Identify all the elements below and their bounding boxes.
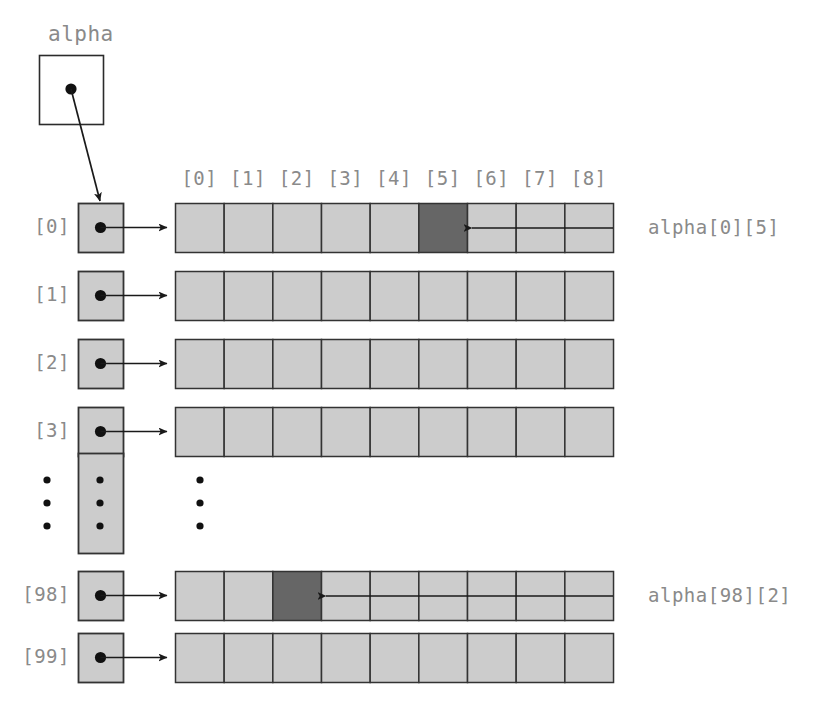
column-header-3: [3] — [319, 167, 371, 189]
row-label-0: [0] — [0, 215, 70, 237]
array-cell — [273, 634, 322, 683]
diagram-shapes — [40, 56, 614, 683]
ellipsis-dot-1-1 — [96, 499, 103, 506]
array-cell — [273, 272, 322, 321]
ellipsis-dot-2-0 — [196, 476, 203, 483]
array-cell — [419, 408, 468, 457]
column-header-7: [7] — [514, 167, 566, 189]
array-cell — [176, 572, 225, 621]
ellipsis-dot-1-0 — [96, 476, 103, 483]
array-cell — [273, 340, 322, 389]
row-label-5: [99] — [0, 645, 70, 667]
ellipsis-dot-1-2 — [96, 522, 103, 529]
array-cell — [224, 340, 273, 389]
array-cell — [322, 408, 371, 457]
column-header-1: [1] — [222, 167, 274, 189]
array-cell — [176, 634, 225, 683]
array-cell — [419, 634, 468, 683]
array-cell — [370, 408, 419, 457]
array-cell — [176, 272, 225, 321]
array-cell — [565, 340, 614, 389]
array-cell — [370, 340, 419, 389]
array-cell — [273, 408, 322, 457]
row-label-3: [3] — [0, 419, 70, 441]
array-cell — [468, 634, 517, 683]
array-cell — [224, 634, 273, 683]
array-cell — [370, 272, 419, 321]
array-cell — [224, 204, 273, 253]
column-header-5: [5] — [417, 167, 469, 189]
array-cell-highlighted — [419, 204, 468, 253]
array-cell — [176, 408, 225, 457]
array-cell — [419, 272, 468, 321]
ellipsis-dot-2-1 — [196, 499, 203, 506]
column-header-0: [0] — [173, 167, 225, 189]
column-header-8: [8] — [563, 167, 615, 189]
ellipsis-dot-2-2 — [196, 522, 203, 529]
array-cell — [565, 272, 614, 321]
column-header-4: [4] — [368, 167, 420, 189]
array-cell — [273, 204, 322, 253]
row-label-1: [1] — [0, 283, 70, 305]
array-cell — [322, 272, 371, 321]
array-cell — [176, 204, 225, 253]
array-cell-highlighted — [273, 572, 322, 621]
array-cell — [176, 340, 225, 389]
callout-label-1: alpha[98][2] — [648, 584, 791, 606]
array-cell — [224, 408, 273, 457]
array-cell — [370, 204, 419, 253]
array-cell — [468, 272, 517, 321]
ellipsis-dot-0-2 — [43, 522, 50, 529]
array-cell — [370, 634, 419, 683]
callout-label-0: alpha[0][5] — [648, 216, 779, 238]
array-cell — [565, 634, 614, 683]
array-cell — [322, 634, 371, 683]
array-cell — [516, 340, 565, 389]
ellipsis-dot-0-1 — [43, 499, 50, 506]
array-cell — [322, 340, 371, 389]
row-label-2: [2] — [0, 351, 70, 373]
array-cell — [419, 340, 468, 389]
diagram-canvas — [0, 0, 814, 714]
array-of-pointers-diagram: alpha[0][1][2][3][4][5][6][7][8][0][1][2… — [0, 0, 814, 714]
alpha-variable-label: alpha — [48, 22, 114, 46]
array-cell — [322, 204, 371, 253]
array-cell — [516, 408, 565, 457]
array-cell — [516, 272, 565, 321]
array-cell — [468, 408, 517, 457]
ellipsis-dot-0-0 — [43, 476, 50, 483]
array-cell — [565, 408, 614, 457]
row-label-4: [98] — [0, 583, 70, 605]
array-cell — [224, 572, 273, 621]
column-header-2: [2] — [271, 167, 323, 189]
array-cell — [224, 272, 273, 321]
array-cell — [516, 634, 565, 683]
array-cell — [468, 340, 517, 389]
column-header-6: [6] — [465, 167, 517, 189]
